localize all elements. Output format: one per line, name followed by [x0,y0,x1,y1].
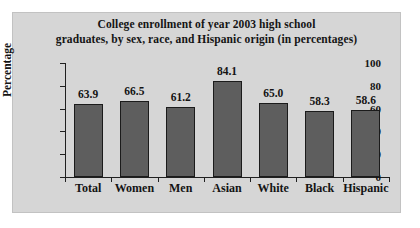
bar [166,107,195,177]
y-tick [60,109,65,110]
bar [74,104,103,177]
bar-value-label: 61.2 [171,91,191,103]
bar-value-label: 66.5 [124,85,144,97]
y-tick-label: 80 [370,80,381,92]
bar [351,110,380,177]
bar-value-label: 58.6 [356,94,376,106]
y-tick [60,154,65,155]
x-tick-label: Men [169,181,192,196]
chart-title: College enrollment of year 2003 high sch… [13,17,400,47]
bar-value-label: 84.1 [217,65,237,77]
x-tick [250,177,251,182]
y-tick [60,63,65,64]
x-tick-label: Hispanic [343,181,388,196]
x-tick-label: Asian [212,181,241,196]
bar [213,81,242,177]
x-tick [296,177,297,182]
y-tick [60,131,65,132]
chart-figure: College enrollment of year 2003 high sch… [13,13,400,212]
chart-title-line-2: graduates, by sex, race, and Hispanic or… [13,32,400,47]
bar [120,101,149,177]
x-tick-label: Black [305,181,334,196]
y-axis-label: Percentage [1,43,13,97]
x-tick [65,177,66,182]
plot-area: 020406080100 63.966.561.284.165.058.358.… [65,63,389,177]
bar-value-label: 63.9 [78,88,98,100]
bar [259,103,288,177]
y-tick [60,86,65,87]
y-tick-label: 100 [365,57,382,69]
x-tick [158,177,159,182]
x-tick [111,177,112,182]
x-tick [389,177,390,182]
bar-value-label: 65.0 [263,87,283,99]
x-axis-spine [65,177,390,178]
chart-title-line-1: College enrollment of year 2003 high sch… [13,17,400,32]
bar [305,111,334,177]
x-tick-label: Total [75,181,101,196]
x-tick-label: Women [115,181,154,196]
x-tick [204,177,205,182]
x-tick-label: White [258,181,289,196]
bar-value-label: 58.3 [310,95,330,107]
